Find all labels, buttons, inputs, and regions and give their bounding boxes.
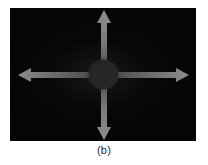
figure-caption: (b) <box>0 144 208 156</box>
arrow-down-icon <box>96 88 112 140</box>
arrow-left-icon <box>18 67 92 83</box>
arrow-up-icon <box>96 10 112 62</box>
arrow-right-icon <box>115 67 189 83</box>
central-blob <box>89 60 118 89</box>
image-panel <box>10 8 196 141</box>
figure-panel-b: (b) <box>0 0 208 165</box>
